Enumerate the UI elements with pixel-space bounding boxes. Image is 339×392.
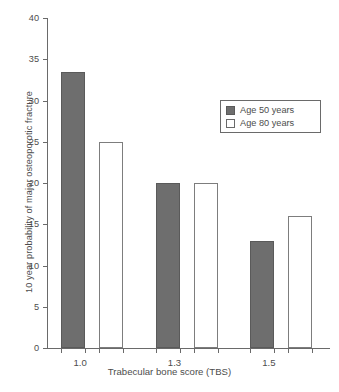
y-tick-label: 0 [34,343,39,353]
y-tick-label: 5 [34,302,39,312]
y-tick-mark [43,142,47,143]
x-tick-mark [312,348,313,353]
legend-label-age-50: Age 50 years [240,106,294,115]
y-tick-mark [43,101,47,102]
y-tick-mark [43,348,47,349]
y-tick-label: 25 [29,137,39,147]
x-tick-mark [99,348,100,353]
chart-legend: Age 50 years Age 80 years [220,100,321,133]
bar-age-50-tbs-1.3 [156,183,180,348]
bar-age-50-tbs-1.0 [61,72,85,348]
y-tick-mark [43,59,47,60]
bar-age-50-tbs-1.5 [250,241,274,348]
x-tick-mark [85,348,86,353]
plot-area: 0510152025303540 1.01.31.5 [47,18,330,348]
y-tick-label: 35 [29,54,39,64]
bar-age-80-tbs-1.5 [288,216,312,348]
legend-label-age-80: Age 80 years [240,119,294,128]
x-tick-mark [288,348,289,353]
y-tick-label: 10 [29,261,39,271]
y-tick-mark [43,18,47,19]
bar-age-80-tbs-1.3 [194,183,218,348]
x-axis-title: Trabecular bone score (TBS) [0,366,339,377]
legend-item-age-50: Age 50 years [226,104,316,117]
y-tick-label: 40 [29,13,39,23]
y-tick-mark [43,266,47,267]
bar-chart-figure: 10 year probability of major osteoporoti… [0,0,339,392]
bar-age-80-tbs-1.0 [99,142,123,348]
x-tick-mark [274,348,275,353]
x-tick-mark [123,348,124,353]
y-axis-title: 10 year probability of major osteoporoti… [24,32,34,352]
x-tick-mark [180,348,181,353]
y-tick-label: 15 [29,219,39,229]
y-tick-mark [43,224,47,225]
y-tick-mark [43,183,47,184]
legend-swatch-age-50 [226,106,235,115]
x-tick-mark [194,348,195,353]
y-axis-line [47,18,48,349]
x-tick-mark [61,348,62,353]
y-tick-label: 30 [29,96,39,106]
y-tick-mark [43,307,47,308]
x-tick-mark [250,348,251,353]
x-tick-mark [156,348,157,353]
legend-item-age-80: Age 80 years [226,117,316,130]
legend-swatch-age-80 [226,119,235,128]
y-tick-label: 20 [29,178,39,188]
x-tick-mark [218,348,219,353]
